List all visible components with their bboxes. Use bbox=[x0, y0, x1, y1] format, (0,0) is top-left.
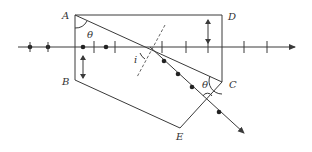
label-d: D bbox=[227, 11, 236, 22]
prism-diagram: A D C B E θ θ i bbox=[0, 0, 312, 152]
label-theta-right: θ bbox=[202, 79, 208, 90]
right-angle-arc-e bbox=[203, 93, 212, 96]
label-b: B bbox=[61, 76, 69, 87]
normal-dashed-line bbox=[137, 25, 165, 77]
label-c: C bbox=[229, 79, 237, 90]
angle-arcs bbox=[75, 21, 222, 96]
angle-arc-i bbox=[140, 53, 145, 59]
label-incidence-angle: i bbox=[134, 54, 137, 65]
polarization-dot bbox=[104, 45, 109, 50]
polarization-dot bbox=[81, 45, 86, 50]
polarization-dot bbox=[162, 59, 167, 64]
diagram-canvas: A D C B E θ θ i bbox=[0, 0, 312, 152]
prism-outline bbox=[75, 15, 222, 128]
prism-diagonal-ac bbox=[75, 15, 222, 82]
vibration-arrows bbox=[83, 20, 208, 78]
label-theta-top: θ bbox=[87, 29, 93, 40]
polarization-dot bbox=[217, 110, 222, 115]
polarization-dot bbox=[176, 72, 181, 77]
polarization-dot bbox=[190, 85, 195, 90]
angle-arc-a bbox=[75, 21, 87, 28]
label-a: A bbox=[61, 10, 69, 21]
refracted-ray-dots bbox=[162, 59, 222, 115]
label-e: E bbox=[175, 131, 184, 142]
